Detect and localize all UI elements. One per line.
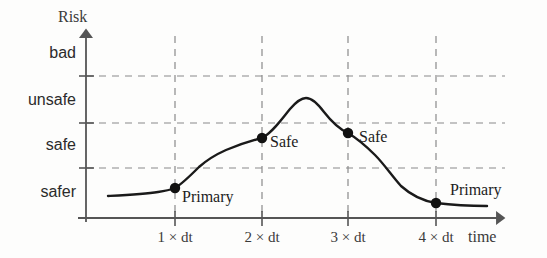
x-tick-label-3dt: 3 × dt xyxy=(308,229,388,246)
x-tick-label-1dt: 1 × dt xyxy=(135,229,215,246)
risk-curve xyxy=(108,98,487,206)
x-tick-label-2dt: 2 × dt xyxy=(222,229,302,246)
chart-canvas xyxy=(0,0,547,258)
y-tick-label-safer: safer xyxy=(0,183,76,201)
data-point-primary-4dt[interactable] xyxy=(431,198,441,208)
risk-over-time-chart: Risk time bad unsafe safe safer 1 × dt 2… xyxy=(0,0,547,258)
y-tick-label-unsafe: unsafe xyxy=(0,91,76,109)
annotation-safe-2dt: Safe xyxy=(270,133,298,151)
data-point-primary-1dt[interactable] xyxy=(170,183,180,193)
y-axis-title: Risk xyxy=(58,8,87,26)
data-point-safe-3dt[interactable] xyxy=(343,128,353,138)
annotation-primary-1dt: Primary xyxy=(182,188,234,206)
x-tick-label-4dt: 4 × dt xyxy=(396,229,476,246)
data-point-safe-2dt[interactable] xyxy=(257,133,267,143)
y-tick-label-bad: bad xyxy=(0,44,76,62)
y-tick-label-safe: safe xyxy=(0,136,76,154)
annotation-primary-4dt: Primary xyxy=(450,181,502,199)
annotation-safe-3dt: Safe xyxy=(359,128,387,146)
horizontal-gridlines xyxy=(86,76,505,168)
